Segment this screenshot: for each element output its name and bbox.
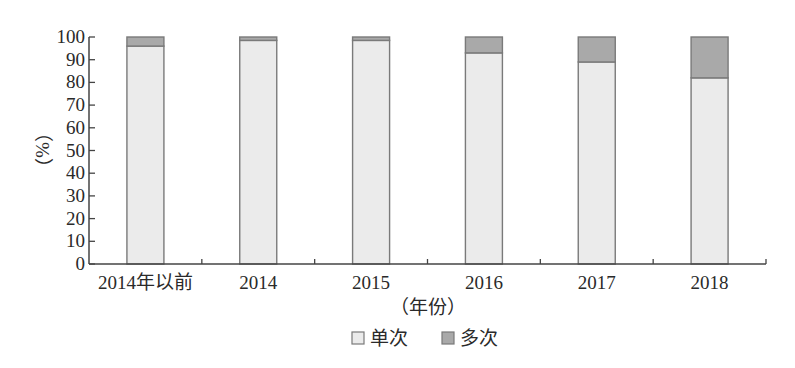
stacked-bar-chart: 0102030405060708090100 2014年以前2014201520… [0,0,795,368]
legend-swatch [352,332,364,344]
x-category-label: 2016 [465,272,503,293]
bar-segment-single [691,78,728,264]
bar-segment-single [240,40,277,264]
bar-stack [691,37,728,264]
x-category-label: 2014年以前 [98,272,193,293]
bar-stack [127,37,164,264]
bar-stack [353,37,390,264]
y-tick-label: 40 [66,162,85,183]
bar-segment-multiple [465,37,502,53]
y-tick-label: 30 [66,185,85,206]
bar-segment-single [578,62,615,264]
legend-swatch [442,332,454,344]
y-axis: 0102030405060708090100 [57,26,96,274]
x-category-label: 2015 [352,272,390,293]
y-tick-label: 20 [66,208,85,229]
legend-item-single: 单次 [352,328,408,349]
bar-segment-single [127,46,164,264]
bar-segment-multiple [127,37,164,46]
y-tick-label: 80 [66,71,85,92]
x-axis-title: （年份） [390,297,466,318]
y-tick-label: 50 [66,140,85,161]
legend-label: 单次 [370,328,408,349]
y-tick-label: 100 [57,26,86,47]
bar-stack [240,37,277,264]
legend-item-multiple: 多次 [442,328,498,349]
legend: 单次多次 [352,328,498,349]
y-tick-label: 10 [66,230,85,251]
x-category-label: 2014 [239,272,278,293]
bar-stack [578,37,615,264]
y-tick-label: 90 [66,49,85,70]
y-axis-title: （%） [32,123,53,177]
bar-segment-single [465,53,502,264]
y-tick-label: 0 [76,253,86,274]
bar-segment-single [353,40,390,264]
bar-segment-multiple [353,37,390,40]
bar-stack [465,37,502,264]
y-tick-label: 70 [66,94,85,115]
bar-segment-multiple [240,37,277,40]
bars [127,37,728,264]
y-tick-label: 60 [66,117,85,138]
x-category-label: 2017 [578,272,616,293]
bar-segment-multiple [578,37,615,62]
legend-label: 多次 [460,328,498,349]
x-category-label: 2018 [691,272,729,293]
bar-segment-multiple [691,37,728,78]
x-axis: 2014年以前20142015201620172018 [89,259,766,293]
